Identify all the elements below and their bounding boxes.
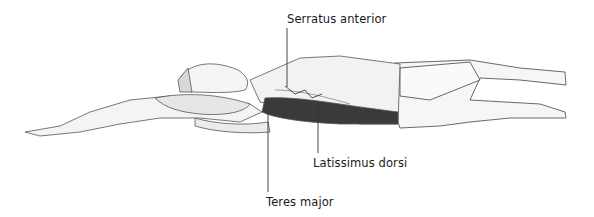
torso	[250, 56, 400, 124]
label-teres-major: Teres major	[266, 195, 334, 209]
legs	[390, 60, 566, 128]
head	[178, 64, 248, 93]
label-latissimus-dorsi: Latissimus dorsi	[313, 156, 407, 170]
anatomy-illustration	[0, 0, 594, 217]
arms	[25, 95, 270, 136]
label-serratus-anterior: Serratus anterior	[287, 12, 386, 26]
